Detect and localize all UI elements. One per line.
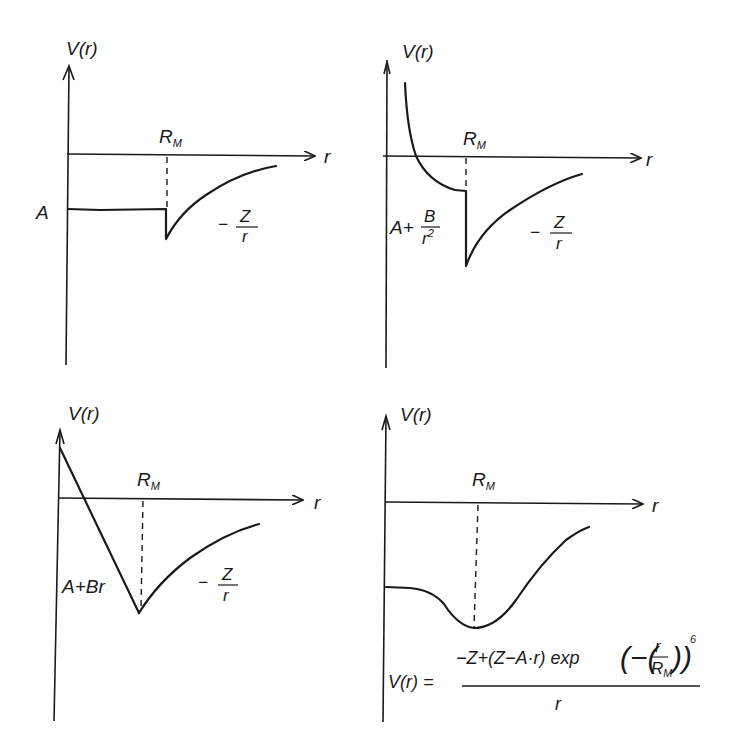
y-axis-label: V(r) — [402, 41, 434, 62]
x-axis — [383, 156, 640, 158]
potential-diagrams: V(r) r RM A − Z r V(r) r RM A+ B r2 − Z … — [0, 0, 736, 756]
x-axis-label: r — [314, 492, 321, 513]
formula-denominator: r — [555, 694, 562, 714]
rm-label: RM — [463, 128, 487, 151]
formula-exponent: 6 — [690, 633, 697, 645]
panel-smooth-potential: V(r) r RM V(r) = −Z+(Z−A·r) exp (−( r RM… — [382, 404, 700, 722]
x-axis — [385, 502, 642, 504]
rm-dashed-line — [474, 505, 478, 627]
smooth-potential-curve — [386, 527, 589, 628]
outer-den: r — [242, 227, 249, 246]
y-axis — [383, 416, 386, 722]
y-axis-label: V(r) — [400, 404, 432, 425]
inner-num: B — [424, 207, 435, 226]
outer-den: r — [223, 586, 230, 605]
inner-constant-curve — [68, 209, 166, 238]
rm-label: RM — [159, 126, 183, 149]
panel-linear-potential: V(r) r RM A+Br − Z r — [54, 403, 321, 721]
outer-num: Z — [239, 207, 251, 226]
formula-numerator: −Z+(Z−A·r) exp — [456, 648, 580, 668]
x-axis-label: r — [324, 146, 331, 167]
y-axis-label: V(r) — [66, 38, 98, 59]
coulomb-tail-curve — [139, 524, 259, 613]
y-axis-label: V(r) — [68, 403, 100, 424]
coulomb-tail-curve — [466, 174, 582, 266]
inner-den: r2 — [422, 227, 434, 248]
outer-sign: − — [530, 223, 540, 242]
rm-label: RM — [472, 469, 496, 492]
panel-inverse-square-potential: V(r) r RM A+ B r2 − Z r — [383, 41, 653, 368]
rm-label: RM — [137, 469, 161, 492]
inner-prefix: A+ — [389, 217, 414, 238]
inner-label: A+Br — [61, 576, 105, 597]
outer-num: Z — [221, 565, 233, 584]
panel-step-potential: V(r) r RM A − Z r — [35, 38, 331, 365]
formula-inner-frac-den: RM — [651, 659, 673, 679]
outer-sign: − — [198, 573, 208, 592]
rm-dashed-line — [141, 501, 143, 608]
x-axis — [58, 498, 302, 500]
inner-inverse-square-curve — [405, 83, 466, 265]
x-axis-label: r — [652, 495, 659, 516]
formula-close-paren: )) — [669, 641, 692, 674]
outer-sign: − — [218, 215, 228, 234]
outer-num: Z — [553, 213, 565, 232]
x-axis-label: r — [646, 149, 653, 170]
formula-lhs: V(r) = — [388, 672, 434, 692]
y-axis — [386, 60, 387, 368]
inner-label: A — [35, 202, 49, 223]
y-axis — [54, 430, 60, 721]
outer-den: r — [556, 234, 563, 253]
y-axis — [66, 66, 69, 365]
formula-inner-frac-num: r — [655, 637, 662, 656]
x-axis — [67, 154, 314, 156]
